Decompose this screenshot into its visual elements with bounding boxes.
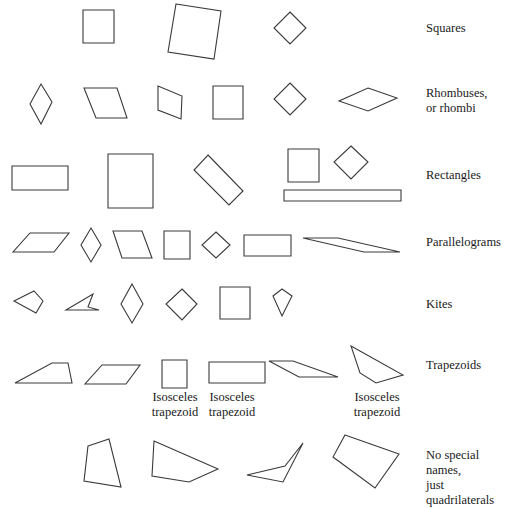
label-rectangles: Rectangles [426,168,481,183]
row-rectangles [12,146,401,208]
row-parallelograms [13,228,400,262]
trapezoid-shape [85,365,140,384]
parallelogram-shape [81,228,101,262]
sublabel-line1: Isosceles [342,390,412,405]
rhombus-shape [274,83,306,115]
rectangle-shape [284,190,401,201]
rectangle-shape [108,154,153,208]
sublabel-line2: trapezoid [342,405,412,420]
row-squares [83,4,306,59]
quadrilateral-shape [84,439,121,487]
label-rhombuses-line1: Rhombuses, [426,86,487,101]
rectangle-shape [12,166,68,190]
rectangle-shape [334,146,368,179]
label-quadrilaterals-line1: No special names, [426,448,511,478]
trapezoid-shape [162,360,187,388]
kite-shape [121,284,143,323]
parallelogram-shape [303,238,400,252]
square-shape [83,10,114,43]
sublabel-line2: trapezoid [197,405,267,420]
sublabel-isosceles-trapezoid-2: Isosceles trapezoid [197,390,267,420]
parallelogram-shape [244,235,291,256]
parallelogram-shape [202,232,230,258]
rectangle-shape [194,155,243,205]
quadrilateral-shape [333,435,399,488]
row-kites [14,284,292,323]
quadrilateral-shape [247,443,303,482]
kite-shape [273,289,292,316]
quadrilateral-shape [152,441,218,482]
parallelogram-shape [13,233,69,252]
label-quadrilaterals: No special names, just quadrilaterals [426,448,511,508]
rhombus-shape [158,86,182,119]
rhombus-shape [30,84,52,124]
trapezoid-shape [15,363,72,383]
trapezoid-shape [209,362,265,383]
rectangle-shape [288,149,319,182]
kite-shape [166,289,197,320]
trapezoid-shape [351,346,403,383]
parallelogram-shape [113,231,152,258]
trapezoid-shape [269,361,338,377]
label-rhombuses-line2: or rhombi [426,101,487,116]
sublabel-line1: Isosceles [197,390,267,405]
label-squares: Squares [426,21,466,36]
label-parallelograms: Parallelograms [426,235,501,250]
rhombus-shape [213,86,243,119]
kite-shape [14,291,43,313]
kite-shape [66,294,99,310]
sublabel-isosceles-trapezoid-3: Isosceles trapezoid [342,390,412,420]
rhombus-shape [339,88,397,111]
row-trapezoids [15,346,403,388]
parallelogram-shape [164,231,190,259]
label-quadrilaterals-line2: just quadrilaterals [426,478,511,508]
square-shape [168,4,221,59]
row-rhombuses [30,83,397,124]
kite-shape [220,287,250,319]
label-kites: Kites [426,297,452,312]
row-quadrilaterals [84,435,399,488]
label-trapezoids: Trapezoids [426,358,481,373]
rhombus-shape [84,88,127,118]
square-shape [274,12,306,44]
label-rhombuses: Rhombuses, or rhombi [426,86,487,116]
